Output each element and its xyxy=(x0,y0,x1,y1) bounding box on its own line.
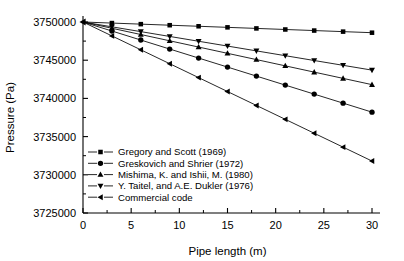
circle-marker xyxy=(283,82,288,87)
marker-square xyxy=(98,150,103,155)
legend-entry xyxy=(88,184,113,189)
square-marker xyxy=(254,26,259,31)
marker-circle xyxy=(196,55,201,60)
y-tick-label: 3735000 xyxy=(33,131,76,143)
circle-marker xyxy=(98,161,103,166)
legend-entry xyxy=(88,194,113,200)
legend-label: Mishima, K. and Ishii, M. (1980) xyxy=(118,169,253,180)
circle-marker xyxy=(196,55,201,60)
square-marker xyxy=(98,150,103,155)
marker-square xyxy=(312,28,317,33)
x-tick-label: 15 xyxy=(221,219,233,231)
triangle-down-marker xyxy=(98,184,104,189)
circle-marker xyxy=(167,46,172,51)
marker-triangle-left xyxy=(97,194,102,200)
triangle-up-marker xyxy=(98,172,104,177)
marker-square xyxy=(341,29,346,34)
square-marker xyxy=(139,22,144,27)
marker-square xyxy=(196,24,201,29)
marker-triangle-left xyxy=(109,33,114,39)
legend-label: Y. Taitel, and A.E. Dukler (1976) xyxy=(118,180,253,191)
triangle-left-marker xyxy=(369,158,374,164)
y-tick-label: 3745000 xyxy=(33,54,76,66)
marker-circle xyxy=(340,100,345,105)
x-tick-label: 5 xyxy=(128,219,134,231)
triangle-left-marker xyxy=(253,102,258,108)
marker-circle xyxy=(369,109,374,114)
triangle-down-marker xyxy=(369,68,375,73)
marker-circle xyxy=(254,73,259,78)
marker-circle xyxy=(138,37,143,42)
circle-marker xyxy=(312,91,317,96)
y-tick-label: 3740000 xyxy=(33,92,76,104)
marker-square xyxy=(225,25,230,30)
series-3 xyxy=(83,22,375,87)
marker-square xyxy=(370,30,375,35)
marker-circle xyxy=(98,161,103,166)
marker-circle xyxy=(312,91,317,96)
marker-triangle-left xyxy=(369,158,374,164)
marker-triangle-left xyxy=(340,144,345,150)
circle-marker xyxy=(138,37,143,42)
circle-marker xyxy=(225,64,230,69)
square-marker xyxy=(167,23,172,28)
marker-triangle-left xyxy=(253,102,258,108)
series-1 xyxy=(83,21,374,35)
series-2 xyxy=(83,22,375,115)
marker-square xyxy=(167,23,172,28)
legend-label: Commercial code xyxy=(118,192,193,203)
marker-triangle-left xyxy=(224,89,229,95)
legend-entry xyxy=(88,150,113,155)
marker-triangle-left xyxy=(282,116,287,122)
series-5 xyxy=(83,22,374,164)
triangle-left-marker xyxy=(138,47,143,53)
triangle-left-marker xyxy=(311,130,316,136)
y-tick-label: 3750000 xyxy=(33,16,76,28)
legend-entry xyxy=(88,161,113,166)
circle-marker xyxy=(340,100,345,105)
triangle-left-marker xyxy=(196,75,201,81)
legend-label: Gregory and Scott (1969) xyxy=(118,146,226,157)
y-tick-label: 3725000 xyxy=(33,207,76,219)
x-tick-label: 20 xyxy=(270,219,282,231)
triangle-left-marker xyxy=(282,116,287,122)
square-marker xyxy=(370,30,375,35)
marker-square xyxy=(283,27,288,32)
chart-figure: 0510152025303725000373000037350003740000… xyxy=(0,0,404,261)
x-tick-label: 0 xyxy=(80,219,86,231)
legend-label: Greskovich and Shrier (1972) xyxy=(118,158,243,169)
pressure-vs-pipe-length-chart: 0510152025303725000373000037350003740000… xyxy=(0,0,404,261)
marker-triangle-down xyxy=(369,68,375,73)
legend-entry xyxy=(88,172,113,177)
marker-circle xyxy=(167,46,172,51)
marker-triangle-left xyxy=(311,130,316,136)
y-axis-title: Pressure (Pa) xyxy=(4,82,16,153)
triangle-left-marker xyxy=(97,194,102,200)
square-marker xyxy=(283,27,288,32)
square-marker xyxy=(341,29,346,34)
marker-triangle-up xyxy=(98,172,104,177)
x-tick-label: 30 xyxy=(366,219,378,231)
triangle-left-marker xyxy=(224,89,229,95)
x-tick-label: 10 xyxy=(173,219,185,231)
circle-marker xyxy=(369,109,374,114)
circle-marker xyxy=(254,73,259,78)
marker-triangle-down xyxy=(98,184,104,189)
square-marker xyxy=(196,24,201,29)
marker-circle xyxy=(283,82,288,87)
y-tick-label: 3730000 xyxy=(33,169,76,181)
marker-triangle-left xyxy=(138,47,143,53)
x-tick-label: 25 xyxy=(318,219,330,231)
marker-triangle-left xyxy=(196,75,201,81)
square-marker xyxy=(225,25,230,30)
square-marker xyxy=(312,28,317,33)
x-axis-title: Pipe length (m) xyxy=(189,245,267,257)
triangle-left-marker xyxy=(167,61,172,67)
triangle-left-marker xyxy=(340,144,345,150)
marker-square xyxy=(254,26,259,31)
marker-square xyxy=(139,22,144,27)
marker-triangle-left xyxy=(167,61,172,67)
triangle-left-marker xyxy=(109,33,114,39)
marker-circle xyxy=(225,64,230,69)
